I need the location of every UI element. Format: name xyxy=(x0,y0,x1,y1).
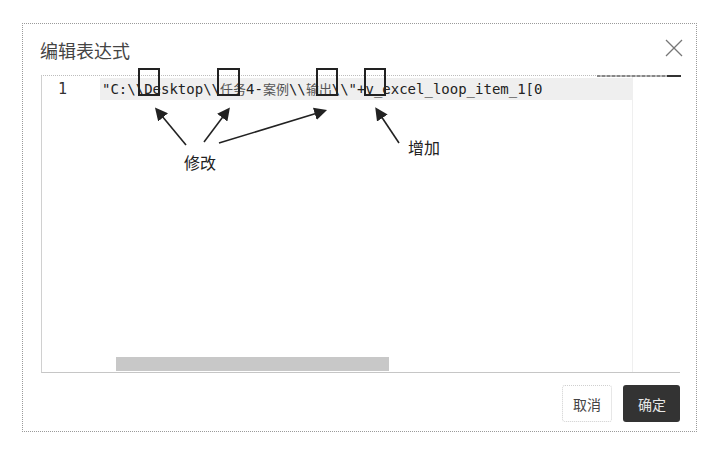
annotation-label-add: 增加 xyxy=(408,135,440,159)
code-area[interactable]: "C:\\Desktop\\任务4-案例\\输出\\"+v_excel_loop… xyxy=(100,76,633,372)
confirm-button[interactable]: 确定 xyxy=(623,385,680,422)
code-token: \\ xyxy=(127,81,144,97)
cancel-button[interactable]: 取消 xyxy=(562,385,612,422)
code-token: Desktop xyxy=(144,81,203,97)
code-token: 任务 xyxy=(220,82,246,97)
code-token: 输出 xyxy=(306,82,332,97)
code-token: \\ xyxy=(203,81,220,97)
annotation-label-modify: 修改 xyxy=(184,150,216,174)
horizontal-scrollbar-thumb[interactable] xyxy=(116,357,389,371)
expression-editor[interactable]: 1 "C:\\Desktop\\任务4-案例\\输出\\"+v_excel_lo… xyxy=(41,75,680,373)
close-button[interactable] xyxy=(664,38,684,58)
close-icon xyxy=(664,38,684,58)
code-token: "C: xyxy=(102,81,127,97)
line-number: 1 xyxy=(58,80,100,98)
minimap-indicator xyxy=(597,75,681,77)
code-token: 案例 xyxy=(263,82,289,97)
code-token: "+v_excel_loop_item_1[0 xyxy=(349,81,543,97)
code-token: 4- xyxy=(246,81,263,97)
code-token: \\ xyxy=(332,81,349,97)
code-token: \\ xyxy=(289,81,306,97)
line-number-gutter: 1 xyxy=(42,76,100,372)
dialog-title: 编辑表达式 xyxy=(40,37,130,63)
code-line[interactable]: "C:\\Desktop\\任务4-案例\\输出\\"+v_excel_loop… xyxy=(100,78,632,100)
